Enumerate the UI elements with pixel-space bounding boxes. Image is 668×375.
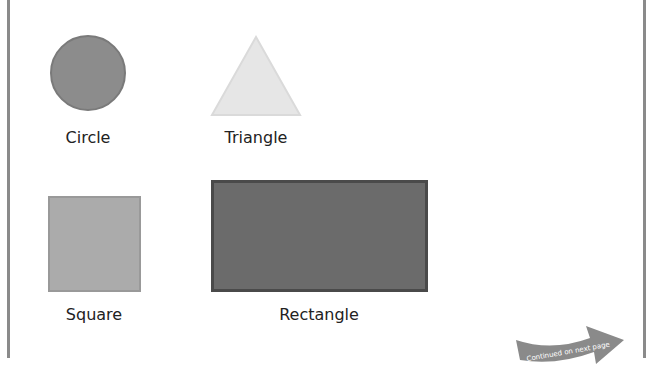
square-label: Square — [24, 305, 164, 324]
page-border-right — [643, 0, 646, 358]
curved-arrow-right-icon[interactable]: Continued on next page — [512, 322, 628, 366]
page-border-left — [7, 0, 10, 358]
circle-shape — [50, 35, 126, 111]
circle-label: Circle — [18, 128, 158, 147]
triangle-label: Triangle — [186, 128, 326, 147]
square-shape — [48, 196, 141, 292]
rectangle-shape — [211, 180, 428, 292]
triangle-shape — [210, 35, 302, 117]
rectangle-label: Rectangle — [249, 305, 389, 324]
